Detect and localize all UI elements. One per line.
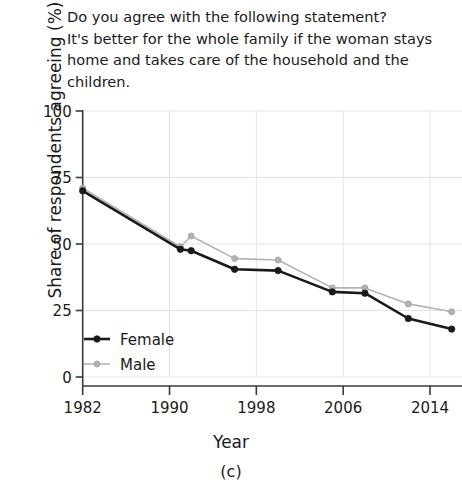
legend-label-female: Female xyxy=(120,331,174,349)
data-point-female xyxy=(275,267,281,273)
data-point-female xyxy=(405,315,411,321)
y-tick-label: 75 xyxy=(53,169,72,187)
y-tick-label: 25 xyxy=(53,302,72,320)
data-point-male xyxy=(405,301,411,307)
data-point-male xyxy=(449,309,455,315)
y-tick-label: 100 xyxy=(43,103,72,121)
data-point-female xyxy=(329,289,335,295)
x-tick-label: 1998 xyxy=(237,399,275,417)
series-line-male xyxy=(83,188,452,312)
x-tick-label: 2006 xyxy=(324,399,362,417)
data-point-female xyxy=(449,326,455,332)
legend-label-male: Male xyxy=(120,356,156,374)
y-tick-label: 0 xyxy=(62,369,72,387)
chart-figure: Do you agree with the following statemen… xyxy=(0,0,462,492)
data-point-male xyxy=(232,256,238,262)
x-tick-label: 1982 xyxy=(64,399,102,417)
x-tick-label: 2014 xyxy=(411,399,449,417)
data-point-female xyxy=(362,290,368,296)
data-point-female xyxy=(177,246,183,252)
data-point-male xyxy=(188,233,194,239)
y-tick-label: 50 xyxy=(53,236,72,254)
data-point-female xyxy=(188,248,194,254)
chart-plot-area: 025507510019821990199820062014FemaleMale xyxy=(0,0,462,492)
data-point-female xyxy=(80,188,86,194)
x-tick-label: 1990 xyxy=(150,399,188,417)
legend-marker-male xyxy=(94,361,100,367)
legend-marker-female xyxy=(94,336,100,342)
data-point-male xyxy=(275,257,281,263)
data-point-female xyxy=(231,266,237,272)
